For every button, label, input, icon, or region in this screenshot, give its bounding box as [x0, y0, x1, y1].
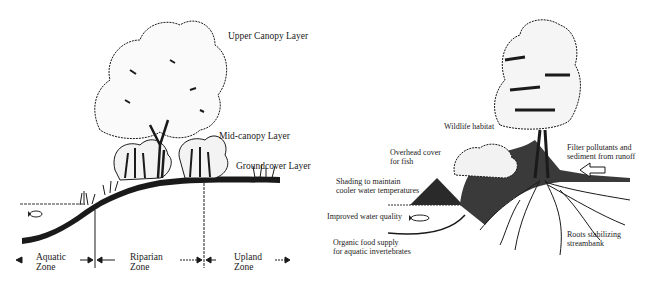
label-filter-line1: Filter pollutants and — [567, 143, 635, 152]
arrow-right-icon — [88, 257, 93, 263]
label-overhead-cover-line1: Overhead cover — [390, 148, 441, 157]
left-panel-drawing — [16, 21, 290, 268]
label-wildlife-habitat: Wildlife habitat — [444, 122, 494, 131]
label-roots-line1: Roots stabilizing — [567, 230, 621, 239]
label-food-supply-line2: for aquatic invertebrates — [333, 247, 411, 256]
zone-label-upland-line2: Zone — [234, 262, 262, 272]
arrow-right-icon — [285, 257, 290, 263]
zone-label-aquatic: Aquatic Zone — [36, 252, 66, 272]
label-overhead-cover: Overhead cover for fish — [390, 148, 441, 166]
right-panel-drawing — [388, 20, 630, 255]
label-water-quality: Improved water quality — [327, 212, 402, 221]
label-roots-stabilizing: Roots stabilizing streambank — [567, 230, 621, 248]
zone-label-riparian: Riparian Zone — [130, 252, 163, 272]
label-filter-line2: sediment from runoff — [567, 152, 635, 161]
label-food-supply: Organic food supply for aquatic inverteb… — [333, 238, 411, 256]
label-roots-line2: streambank — [567, 239, 621, 248]
arrow-right-icon — [197, 257, 202, 263]
arrow-left-icon — [97, 257, 102, 263]
zone-label-aquatic-line1: Aquatic — [36, 252, 66, 262]
fish-icon-right — [409, 215, 429, 221]
zone-label-upland: Upland Zone — [234, 252, 262, 272]
label-filter-pollutants: Filter pollutants and sediment from runo… — [567, 143, 635, 161]
label-mid-canopy-layer: Mid-canopy Layer — [219, 131, 290, 141]
fish-icon-left — [28, 211, 42, 217]
arrow-left-icon — [16, 257, 22, 263]
label-overhead-cover-line2: for fish — [390, 157, 441, 166]
mid-canopy-shrubs — [114, 136, 228, 180]
label-shading: Shading to maintain cooler water tempera… — [336, 177, 419, 195]
streambank-ground-left — [22, 176, 280, 244]
zone-label-riparian-line1: Riparian — [130, 252, 163, 262]
zone-label-riparian-line2: Zone — [130, 262, 163, 272]
label-groundcover-layer: Groundcover Layer — [236, 161, 311, 171]
zone-label-upland-line1: Upland — [234, 252, 262, 262]
label-upper-canopy-layer: Upper Canopy Layer — [228, 31, 308, 41]
riparian-zones-illustration — [0, 0, 649, 284]
zone-label-aquatic-line2: Zone — [36, 262, 66, 272]
label-food-supply-line1: Organic food supply — [333, 238, 411, 247]
arrow-left-icon — [206, 257, 211, 263]
label-shading-line2: cooler water temperatures — [336, 186, 419, 195]
label-shading-line1: Shading to maintain — [336, 177, 419, 186]
